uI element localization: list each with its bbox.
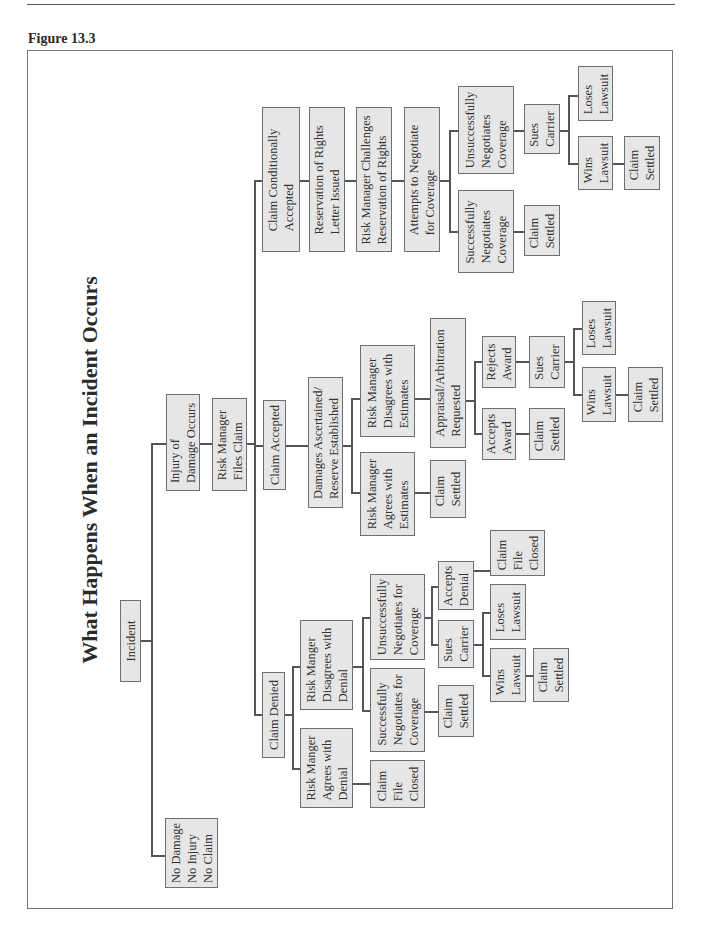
- node-label: Claim Settled: [440, 694, 472, 729]
- node-label: Claim Accepted: [267, 405, 283, 485]
- connector: [516, 433, 529, 435]
- connector: [616, 394, 628, 396]
- node-label: Wins Lawsuit: [492, 655, 524, 695]
- connector: [345, 180, 356, 182]
- node-label: Claim Settled: [535, 658, 567, 693]
- connector: [286, 445, 308, 447]
- node-label: Claim File Closed: [494, 536, 542, 571]
- node-label: Wins Lawsuit: [580, 143, 612, 183]
- node-label: Loses Lawsuit: [580, 73, 612, 113]
- node-label: Claim File Closed: [374, 767, 422, 802]
- top-rule: [27, 4, 675, 5]
- connector: [415, 398, 430, 400]
- node-cd-success: Successfully Negotiates for Coverage: [370, 668, 425, 752]
- node-cca-success: Successfully Negotiates Coverage: [458, 190, 514, 273]
- connector: [474, 361, 476, 434]
- node-label: Loses Lawsuit: [492, 592, 524, 632]
- node-cd-success-settled: Claim Settled: [438, 685, 474, 737]
- node-label: Appraisal/Arbitration Requested: [432, 329, 464, 437]
- node-label: Unsuccessfully Negotiates for Coverage: [374, 579, 422, 655]
- connector: [151, 443, 166, 445]
- node-label: Accepts Denial: [440, 565, 472, 605]
- node-agrees-denial-closed: Claim File Closed: [370, 760, 425, 808]
- connector: [482, 612, 484, 676]
- node-ror-letter: Reservation of Rights Letter Issued: [309, 107, 345, 252]
- node-label: Claim Settled: [432, 472, 464, 507]
- node-label: Claim Settled: [626, 146, 658, 181]
- node-ca-wins-settled: Claim Settled: [628, 367, 663, 422]
- connector: [449, 130, 458, 132]
- node-no-damage: No Damage No Injury No Claim: [165, 818, 218, 888]
- node-label: Unsuccessfully Negotiates Coverage: [462, 92, 510, 168]
- node-label: Risk Manager Challenges Reservation of R…: [358, 115, 390, 244]
- node-claim-accepted: Claim Accepted: [263, 400, 286, 490]
- connector: [200, 443, 212, 445]
- node-label: Risk Manager Files Claim: [214, 409, 246, 479]
- connector: [351, 398, 360, 400]
- node-cd-unsuccess: Unsuccessfully Negotiates for Coverage: [370, 574, 425, 660]
- node-label: Risk Manger Agrees with Denial: [303, 736, 351, 801]
- node-ca-wins-lawsuit: Wins Lawsuit: [582, 367, 616, 422]
- diagram-title-wrap: What Happens When an Incident Occurs: [72, 300, 108, 640]
- node-label: Risk Manager Agrees with Estimates: [364, 459, 412, 529]
- connector: [482, 675, 490, 677]
- connector: [300, 180, 309, 182]
- node-label: Risk Manger Disagrees with Denial: [303, 628, 351, 703]
- connector: [449, 130, 451, 232]
- node-rm-challenges: Risk Manager Challenges Reservation of R…: [356, 107, 392, 252]
- connector: [415, 492, 430, 494]
- node-rm-agrees-denial: Risk Manger Agrees with Denial: [300, 728, 353, 808]
- connector: [568, 95, 570, 164]
- connector: [431, 644, 438, 646]
- connector: [573, 328, 575, 395]
- node-damages-ascertained: Damages Ascertained/ Reserve Established: [308, 377, 343, 508]
- node-rm-disagrees-estimates: Risk Manager Disagrees with Estimates: [360, 345, 415, 437]
- node-cd-accepts-closed: Claim File Closed: [490, 530, 545, 576]
- connector: [292, 666, 294, 769]
- node-label: Claim Settled: [630, 377, 662, 412]
- node-claim-conditionally-accepted: Claim Conditionally Accepted: [262, 107, 300, 252]
- connector: [362, 617, 370, 619]
- connector: [449, 231, 458, 233]
- node-label: No Damage No Injury No Claim: [168, 823, 216, 883]
- connector: [151, 855, 165, 857]
- node-cca-loses-lawsuit: Loses Lawsuit: [578, 66, 613, 121]
- node-cd-loses-lawsuit: Loses Lawsuit: [490, 584, 526, 640]
- node-label: Rejects Award: [483, 344, 515, 381]
- connector: [353, 783, 370, 785]
- node-files-claim: Risk Manager Files Claim: [212, 398, 247, 491]
- connector: [292, 666, 300, 668]
- node-label: Successfully Negotiates for Coverage: [374, 674, 422, 745]
- node-label: Claim Denied: [266, 680, 282, 750]
- connector: [254, 180, 262, 182]
- connector: [482, 612, 490, 614]
- node-cd-accepts-denial: Accepts Denial: [438, 561, 474, 610]
- connector: [474, 361, 482, 363]
- node-label: Claim Settled: [531, 417, 563, 452]
- connector: [151, 443, 153, 856]
- node-injury-occurs: Injury of Damage Occurs: [166, 394, 200, 491]
- node-ca-loses-lawsuit: Loses Lawsuit: [582, 301, 616, 355]
- connector: [514, 231, 524, 233]
- connector: [254, 180, 256, 715]
- node-cca-success-settled: Claim Settled: [524, 205, 560, 256]
- node-agrees-estimates-settled: Claim Settled: [430, 460, 466, 518]
- node-accepts-award-settled: Claim Settled: [529, 408, 565, 460]
- node-label: Reservation of Rights Letter Issued: [311, 125, 343, 234]
- connector: [425, 711, 438, 713]
- connector: [613, 163, 624, 165]
- node-cd-sues-carrier: Sues Carrier: [438, 620, 474, 668]
- node-cca-wins-lawsuit: Wins Lawsuit: [578, 136, 613, 190]
- node-label: Loses Lawsuit: [583, 308, 615, 348]
- node-cd-wins-settled: Claim Settled: [533, 648, 569, 702]
- node-label: Sues Carrier: [440, 626, 472, 661]
- connector: [526, 675, 533, 677]
- node-cca-unsuccess: Unsuccessfully Negotiates Coverage: [458, 86, 514, 174]
- connector: [292, 768, 300, 770]
- connector: [351, 398, 353, 493]
- node-label: Sues Carrier: [526, 111, 558, 146]
- node-label: Sues Carrier: [531, 344, 563, 379]
- node-label: Successfully Negotiates Coverage: [462, 200, 510, 263]
- connector: [431, 586, 433, 645]
- node-label: Risk Manager Disagrees with Estimates: [364, 354, 412, 429]
